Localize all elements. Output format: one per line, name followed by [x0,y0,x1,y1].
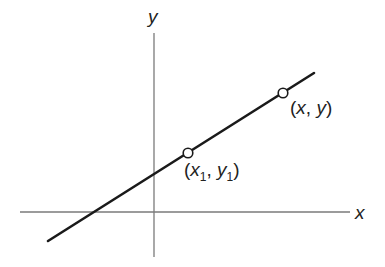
straight-line [48,73,314,241]
point-x-y [278,88,288,98]
coordinate-diagram: y x (x1, y1) (x, y) [0,0,385,267]
point-x-y-label: (x, y) [290,97,332,118]
point-x1-y1-label: (x1, y1) [184,159,240,184]
point-x1-y1 [183,148,193,158]
x-axis-label: x [354,202,366,223]
y-axis-label: y [146,6,159,27]
